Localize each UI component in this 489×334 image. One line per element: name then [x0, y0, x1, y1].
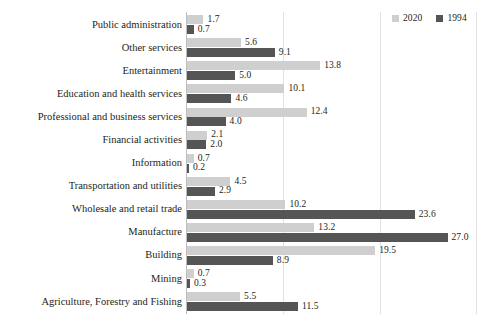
- bar-item-1994[interactable]: 5.0: [187, 71, 251, 80]
- bar-item-1994[interactable]: 23.6: [187, 210, 436, 219]
- bar-value-label: 4.5: [234, 177, 246, 187]
- bar-2020[interactable]: [187, 61, 320, 70]
- bar-2020[interactable]: [187, 200, 285, 209]
- bar-group: 2.12.0: [187, 128, 489, 151]
- bar-item-2020[interactable]: 4.5: [187, 177, 247, 186]
- bar-1994[interactable]: [187, 25, 194, 34]
- category-label: Mining: [151, 273, 182, 285]
- bar-item-2020[interactable]: 19.5: [187, 246, 396, 255]
- bar-group: 19.58.9: [187, 244, 489, 267]
- bar-row: Other services5.69.1: [0, 36, 489, 59]
- bar-1994[interactable]: [187, 48, 275, 57]
- bar-group: 10.14.6: [187, 82, 489, 105]
- bar-row: Entertainment13.85.0: [0, 59, 489, 82]
- bar-row: Mining0.70.3: [0, 267, 489, 290]
- bar-value-label: 10.2: [289, 200, 306, 210]
- bar-value-label: 10.1: [288, 84, 305, 94]
- bar-value-label: 19.5: [379, 246, 396, 256]
- bar-value-label: 11.5: [302, 302, 319, 312]
- bar-2020[interactable]: [187, 223, 314, 232]
- bar-value-label: 0.7: [198, 25, 210, 35]
- bar-2020[interactable]: [187, 269, 194, 278]
- bar-1994[interactable]: [187, 302, 298, 311]
- bar-group: 5.511.5: [187, 290, 489, 313]
- legend-entry-1994[interactable]: 1994: [436, 14, 466, 24]
- bar-item-1994[interactable]: 9.1: [187, 48, 291, 57]
- bar-row: Manufacture13.227.0: [0, 221, 489, 244]
- bar-value-label: 4.0: [230, 117, 242, 127]
- bar-item-2020[interactable]: 13.8: [187, 61, 341, 70]
- legend-label-1994: 1994: [447, 14, 466, 24]
- category-label: Education and health services: [57, 88, 182, 100]
- bar-group: 0.70.2: [187, 152, 489, 175]
- category-label: Professional and business services: [38, 111, 182, 123]
- bar-item-1994[interactable]: 0.3: [187, 279, 206, 288]
- bar-item-2020[interactable]: 13.2: [187, 223, 335, 232]
- bar-item-1994[interactable]: 27.0: [187, 233, 469, 242]
- bar-item-1994[interactable]: 2.9: [187, 187, 231, 196]
- category-label: Other services: [122, 42, 182, 54]
- bar-1994[interactable]: [187, 117, 226, 126]
- bar-item-1994[interactable]: 2.0: [187, 140, 222, 149]
- bar-row: Professional and business services12.44.…: [0, 105, 489, 128]
- category-label: Manufacture: [128, 227, 182, 239]
- bar-row: Agriculture, Forestry and Fishing5.511.5: [0, 290, 489, 313]
- bar-item-2020[interactable]: 5.5: [187, 292, 256, 301]
- bar-2020[interactable]: [187, 246, 375, 255]
- bar-item-1994[interactable]: 8.9: [187, 256, 289, 265]
- bar-group: 10.223.6: [187, 198, 489, 221]
- bar-group: 13.85.0: [187, 59, 489, 82]
- bar-group: 5.69.1: [187, 36, 489, 59]
- bar-row: Education and health services10.14.6: [0, 82, 489, 105]
- bar-item-1994[interactable]: 0.2: [187, 164, 205, 173]
- bar-group: 4.52.9: [187, 175, 489, 198]
- bar-2020[interactable]: [187, 108, 307, 117]
- category-label: Information: [132, 157, 182, 169]
- bar-value-label: 23.6: [419, 210, 436, 220]
- chart-legend: 2020 1994: [392, 14, 467, 24]
- bar-value-label: 9.1: [279, 48, 291, 58]
- bar-value-label: 27.0: [452, 233, 469, 243]
- bar-row: Financial activities2.12.0: [0, 128, 489, 151]
- bar-1994[interactable]: [187, 140, 206, 149]
- legend-swatch-1994: [436, 15, 443, 22]
- category-label: Wholesale and retail trade: [72, 204, 182, 216]
- bar-item-2020[interactable]: 12.4: [187, 108, 328, 117]
- bar-value-label: 0.2: [193, 163, 205, 173]
- bar-group: 12.44.0: [187, 105, 489, 128]
- bar-2020[interactable]: [187, 15, 203, 24]
- bar-item-2020[interactable]: 0.7: [187, 269, 210, 278]
- bar-1994[interactable]: [187, 71, 235, 80]
- bar-1994[interactable]: [187, 94, 231, 103]
- bar-value-label: 1.7: [207, 15, 219, 25]
- bar-1994[interactable]: [187, 279, 190, 288]
- legend-swatch-2020: [392, 15, 399, 22]
- bar-item-1994[interactable]: 4.0: [187, 117, 242, 126]
- bar-1994[interactable]: [187, 187, 215, 196]
- category-label: Building: [145, 250, 182, 262]
- bar-item-1994[interactable]: 0.7: [187, 25, 210, 34]
- bar-row: Transportation and utilities4.52.9: [0, 175, 489, 198]
- bar-2020[interactable]: [187, 38, 241, 47]
- bar-item-2020[interactable]: 10.2: [187, 200, 306, 209]
- bar-value-label: 4.6: [235, 94, 247, 104]
- bar-1994[interactable]: [187, 233, 448, 242]
- legend-entry-2020[interactable]: 2020: [392, 14, 422, 24]
- bar-item-2020[interactable]: 1.7: [187, 15, 220, 24]
- plot-area: Public administration1.70.7Other service…: [0, 0, 489, 334]
- bar-group: 13.227.0: [187, 221, 489, 244]
- bar-item-2020[interactable]: 5.6: [187, 38, 257, 47]
- category-label: Financial activities: [102, 134, 182, 146]
- bar-2020[interactable]: [187, 131, 207, 140]
- bar-value-label: 5.0: [239, 71, 251, 81]
- category-label: Public administration: [92, 19, 182, 31]
- bar-1994[interactable]: [187, 256, 273, 265]
- bar-item-1994[interactable]: 4.6: [187, 94, 248, 103]
- bar-2020[interactable]: [187, 292, 240, 301]
- category-label: Transportation and utilities: [69, 180, 182, 192]
- bar-item-1994[interactable]: 11.5: [187, 302, 319, 311]
- bar-1994[interactable]: [187, 210, 415, 219]
- bar-value-label: 2.0: [210, 140, 222, 150]
- bar-1994[interactable]: [187, 164, 189, 173]
- category-label: Entertainment: [123, 65, 182, 77]
